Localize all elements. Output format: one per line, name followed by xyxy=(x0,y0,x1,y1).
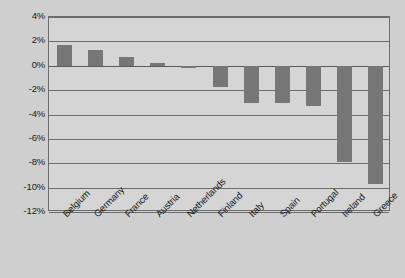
bar-belgium[interactable] xyxy=(57,45,72,66)
bar-greece[interactable] xyxy=(368,66,383,184)
gridline xyxy=(49,17,389,18)
bar-austria[interactable] xyxy=(150,63,165,66)
y-axis-tick-label: -10% xyxy=(1,182,45,192)
y-axis-tick-label: -8% xyxy=(1,157,45,167)
bar-spain[interactable] xyxy=(275,66,290,103)
bar-germany[interactable] xyxy=(88,50,103,66)
gridline xyxy=(49,41,389,42)
y-axis-tick-label: -4% xyxy=(1,109,45,119)
bar-portugal[interactable] xyxy=(306,66,321,106)
gridline xyxy=(49,163,389,164)
bar-ireland[interactable] xyxy=(337,66,352,162)
bar-netherlands[interactable] xyxy=(181,66,196,68)
y-axis-tick-label: 2% xyxy=(1,35,45,45)
bar-italy[interactable] xyxy=(244,66,259,103)
y-axis-tick-label: 0% xyxy=(1,60,45,70)
bar-france[interactable] xyxy=(119,57,134,66)
x-axis: BelgiumGermanyFranceAustriaNetherlandsFi… xyxy=(48,212,390,278)
bar-chart: 4%2%0%-2%-4%-6%-8%-10%-12% BelgiumGerman… xyxy=(0,0,405,278)
y-axis-tick-label: 4% xyxy=(1,11,45,21)
y-axis-tick-label: -2% xyxy=(1,84,45,94)
y-axis-tick-label: -6% xyxy=(1,133,45,143)
y-axis-tick-label: -12% xyxy=(1,206,45,216)
y-axis: 4%2%0%-2%-4%-6%-8%-10%-12% xyxy=(0,16,45,211)
bar-finland[interactable] xyxy=(213,66,228,87)
